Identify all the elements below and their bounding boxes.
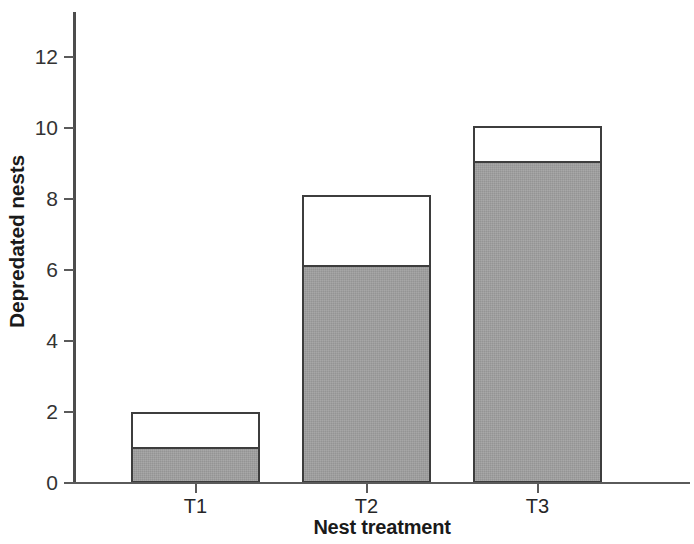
- y-tick-12: [64, 56, 74, 58]
- y-tick-label: 8: [16, 188, 58, 209]
- x-tick-label-t3: T3: [498, 494, 578, 518]
- y-tick-label: 6: [16, 259, 58, 280]
- y-tick-label: 0: [16, 472, 58, 493]
- x-axis-line: [73, 482, 690, 484]
- y-tick-0: [64, 482, 74, 484]
- bar-t2: [302, 195, 431, 483]
- x-tick-t2: [366, 484, 368, 493]
- bar-chart: Depredated nests 024681012 T1T2T3 Nest t…: [0, 0, 694, 544]
- x-axis-label: Nest treatment: [74, 516, 690, 539]
- x-tick-t1: [195, 484, 197, 493]
- bar-segment-upper-t1: [131, 412, 260, 448]
- y-tick-label: 10: [16, 117, 58, 138]
- bar-t3: [473, 126, 602, 483]
- bar-segment-upper-t3: [473, 126, 602, 162]
- y-tick-10: [64, 127, 74, 129]
- y-tick-label: 2: [16, 401, 58, 422]
- y-axis-line: [73, 12, 76, 484]
- bar-segment-upper-t2: [302, 195, 431, 266]
- y-tick-4: [64, 340, 74, 342]
- y-tick-2: [64, 411, 74, 413]
- bar-segment-lower-t2: [302, 266, 431, 483]
- bar-t1: [131, 412, 260, 483]
- y-tick-label: 4: [16, 330, 58, 351]
- y-tick-8: [64, 198, 74, 200]
- x-tick-t3: [537, 484, 539, 493]
- x-tick-label-t1: T1: [156, 494, 236, 518]
- bar-segment-lower-t3: [473, 162, 602, 483]
- bar-segment-lower-t1: [131, 448, 260, 484]
- y-tick-6: [64, 269, 74, 271]
- x-tick-label-t2: T2: [327, 494, 407, 518]
- y-tick-label: 12: [16, 46, 58, 67]
- y-axis-tick-labels: 024681012: [0, 0, 58, 544]
